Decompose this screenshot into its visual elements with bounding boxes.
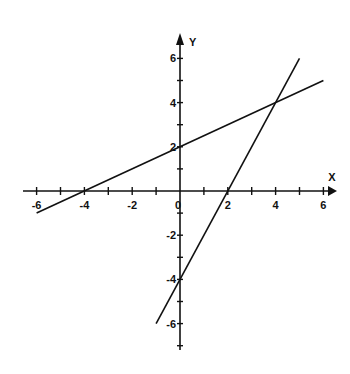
x-tick-label: -2	[127, 199, 137, 211]
x-tick-label: -6	[32, 199, 42, 211]
y-tick-label: 6	[170, 52, 176, 64]
y-axis-arrow-icon	[176, 33, 184, 45]
y-axis-label: Y	[189, 36, 197, 48]
origin-label: 0	[175, 199, 181, 211]
y-tick-label: 4	[170, 97, 177, 109]
x-tick-label: 6	[320, 199, 326, 211]
x-tick-label: 2	[225, 199, 231, 211]
x-axis-arrow-icon	[328, 186, 337, 196]
coordinate-plane: -6-4-2246642-2-4-60XY	[0, 0, 350, 374]
y-tick-label: -6	[166, 318, 176, 330]
y-tick-label: -4	[166, 273, 177, 285]
y-tick-label: -2	[166, 229, 176, 241]
x-axis-label: X	[328, 171, 336, 183]
x-tick-label: 4	[273, 199, 280, 211]
x-tick-label: -4	[80, 199, 91, 211]
